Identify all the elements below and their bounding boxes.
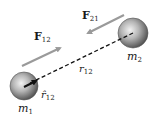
force-f21-label: F21 <box>82 10 99 21</box>
unit-vector-label: r̂12 <box>41 90 55 100</box>
mass-2-label: m2 <box>127 51 142 62</box>
force-f12-label: F12 <box>34 31 51 42</box>
separation-label: r12 <box>79 64 93 74</box>
force-f12-arrow <box>22 48 60 66</box>
mass-1-label: m1 <box>18 103 33 114</box>
